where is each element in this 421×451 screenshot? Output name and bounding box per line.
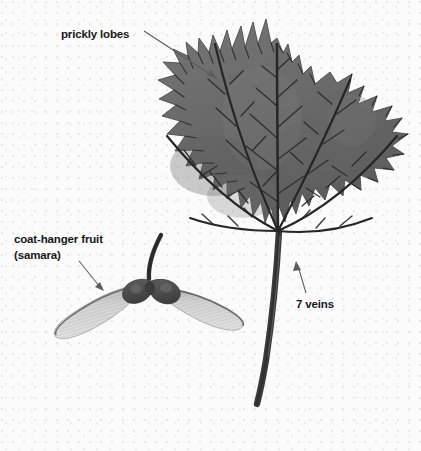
label-coat-hanger-fruit-line-2: (samara) bbox=[14, 248, 103, 264]
figure-canvas: prickly lobes coat-hanger fruit (samara)… bbox=[0, 0, 421, 451]
label-coat-hanger-fruit: coat-hanger fruit (samara) bbox=[14, 232, 103, 263]
label-coat-hanger-fruit-line-1: coat-hanger fruit bbox=[14, 232, 103, 248]
maple-leaf-blade bbox=[158, 19, 408, 232]
samara-left-wing bbox=[54, 286, 133, 339]
label-prickly-lobes-line-1: prickly lobes bbox=[61, 27, 129, 43]
arrow-coat-hanger-fruit bbox=[79, 261, 104, 291]
arrow-seven-veins bbox=[293, 261, 306, 293]
label-prickly-lobes: prickly lobes bbox=[61, 27, 129, 43]
label-seven-veins: 7 veins bbox=[296, 297, 334, 313]
label-seven-veins-line-1: 7 veins bbox=[296, 297, 334, 313]
maple-illustration bbox=[0, 0, 421, 451]
leaf-petiole bbox=[257, 231, 280, 404]
